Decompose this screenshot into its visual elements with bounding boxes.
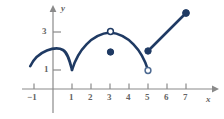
point-closed-3-2 [107,49,113,55]
x-tick-label-5: 5 [145,93,150,102]
y-tick-label-1: 1 [44,65,49,74]
point-closed-5-2 [145,48,151,54]
y-tick-label-3: 3 [42,27,47,36]
axes-group [22,5,219,113]
point-closed-7-4 [183,10,190,17]
x-tick-label-1: 1 [69,93,74,102]
x-axis-label: x [206,95,211,104]
y-axis-label: y [61,4,65,13]
x-axis-arrow-icon [212,86,219,93]
x-tick-label-4: 4 [126,93,131,102]
y-tick-marks [53,32,61,70]
x-tick-label--1: −1 [27,93,37,102]
marker-group [107,10,189,74]
curve-arc-1 [30,49,72,70]
point-open-3-3 [108,29,114,35]
x-tick-marks [34,84,186,90]
point-open-5-1 [145,68,151,74]
x-tick-label-2: 2 [88,93,93,102]
curve-segment-3 [148,13,186,51]
x-tick-label-6: 6 [164,93,169,102]
graph-figure: y x 3 1 −1 1 2 3 4 5 6 7 [0,0,224,119]
x-tick-label-3: 3 [107,93,112,102]
y-axis-arrow-icon [50,5,57,12]
x-tick-label-7: 7 [183,93,188,102]
